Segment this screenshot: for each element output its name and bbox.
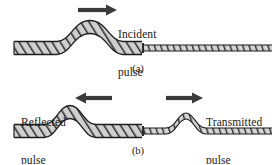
physics-figure-wave-pulse-boundary: Incident pulse Reflected pulse Transmitt… xyxy=(0,0,276,164)
transmitted-pulse-label-line2: pulse xyxy=(206,154,262,165)
transmitted-pulse-label-line1: Transmitted xyxy=(206,116,262,129)
reflected-pulse-label-line1: Reflected xyxy=(21,116,77,129)
incident-arrow xyxy=(78,5,117,16)
incident-pulse-label: Incident pulse xyxy=(118,3,156,103)
reflected-pulse-label-line2: pulse xyxy=(21,154,77,165)
panel-b-caption: (b) xyxy=(118,145,158,156)
transmitted-arrow xyxy=(166,93,203,104)
panel-a-caption: (a) xyxy=(118,63,158,74)
thin-rope-a xyxy=(142,45,272,51)
incident-pulse-label-line1: Incident xyxy=(118,28,156,41)
reflected-pulse-label: Reflected pulse xyxy=(21,91,77,164)
transmitted-pulse-label: Transmitted pulse xyxy=(206,91,262,164)
reflected-arrow xyxy=(75,93,112,104)
